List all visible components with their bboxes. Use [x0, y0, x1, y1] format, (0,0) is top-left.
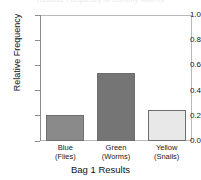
- bar-yellow: [148, 110, 186, 142]
- bars-layer: [40, 15, 192, 141]
- bar-blue: [46, 115, 84, 141]
- x-axis-title: Bag 1 Results: [0, 165, 201, 175]
- y-axis-title: Relative Frequency: [13, 0, 22, 113]
- x-axis-label-name: Green: [106, 143, 127, 152]
- bar-chart-figure: Relative Frequency of Gummy Worms 0.00.2…: [0, 0, 201, 180]
- clipped-top-caption: Relative Frequency of Gummy Worms: [0, 0, 201, 4]
- x-axis-label-name: Blue: [58, 143, 73, 152]
- x-axis-label-yellow: Yellow(Snails): [137, 143, 197, 161]
- x-axis-label-name: Yellow: [156, 143, 177, 152]
- bar-green: [97, 73, 135, 141]
- x-axis-label-sublabel: (Snails): [137, 152, 197, 161]
